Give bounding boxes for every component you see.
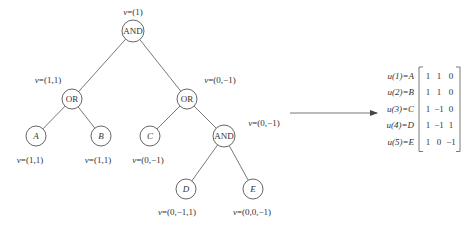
matrix-row-label: u(1)=A — [387, 71, 414, 81]
matrix-row-label: u(4)=D — [386, 120, 414, 130]
node-C: C — [140, 126, 160, 146]
edge-and-inner-D — [192, 145, 218, 181]
matrix-cell: 0 — [449, 104, 454, 114]
value-label-E: v=(0,0,−1) — [233, 207, 271, 217]
matrix-cell: −1 — [434, 120, 444, 130]
edge-or-right-and-inner — [194, 106, 216, 128]
node-label: E — [249, 184, 256, 194]
node-label: AND — [123, 26, 143, 36]
node-label: B — [98, 131, 104, 141]
matrix-cell: 1 — [437, 87, 442, 97]
matrix-cell: 1 — [426, 87, 431, 97]
matrix-cell: 1 — [426, 137, 431, 147]
node-label: OR — [181, 94, 194, 104]
node-B: B — [91, 126, 111, 146]
node-value-labels: v=(1)v=(1,1)v=(0,−1)v=(1,1)v=(1,1)v=(0,−… — [17, 7, 280, 217]
matrix-cell: 1 — [426, 104, 431, 114]
and-or-tree-diagram: ANDORORABCANDDE v=(1)v=(1,1)v=(0,−1)v=(1… — [0, 0, 468, 229]
value-label-D: v=(0,−1,1) — [158, 207, 196, 217]
value-label-B: v=(1,1) — [85, 155, 111, 165]
node-label: OR — [66, 94, 79, 104]
coefficient-matrix: u(1)=A110u(2)=B110u(3)=C1−10u(4)=D1−11u(… — [386, 67, 460, 152]
matrix-cell: 1 — [426, 120, 431, 130]
node-label: A — [32, 131, 39, 141]
matrix-cell: 0 — [449, 87, 454, 97]
edge-or-left-B — [78, 107, 95, 128]
value-label-and-inner: v=(0,−1) — [248, 118, 279, 128]
node-D: D — [176, 179, 196, 199]
value-label-A: v=(1,1) — [17, 155, 43, 165]
matrix-cell: 0 — [449, 71, 454, 81]
value-label-or-left: v=(1,1) — [35, 75, 61, 85]
value-label-root: v=(1) — [123, 7, 143, 17]
matrix-left-bracket — [419, 67, 423, 152]
matrix-row-label: u(5)=E — [387, 137, 414, 147]
matrix-cell: −1 — [434, 104, 444, 114]
edge-or-right-C — [157, 106, 180, 129]
node-A: A — [26, 126, 46, 146]
edge-and-inner-E — [229, 146, 248, 181]
node-E: E — [243, 179, 263, 199]
matrix-cell: 1 — [437, 71, 442, 81]
matrix-right-bracket — [456, 67, 460, 152]
node-label: AND — [214, 131, 234, 141]
node-label: D — [182, 184, 190, 194]
edge-or-left-A — [43, 106, 65, 129]
node-and-inner: AND — [213, 125, 235, 147]
matrix-row-label: u(2)=B — [387, 87, 414, 97]
edge-root-or-left — [79, 39, 126, 91]
edge-root-or-right — [140, 40, 181, 92]
node-label: C — [147, 131, 154, 141]
matrix-cell: −1 — [446, 137, 456, 147]
value-label-C: v=(0,−1) — [132, 155, 163, 165]
matrix-cell: 1 — [426, 71, 431, 81]
matrix-row-label: u(3)=C — [387, 104, 415, 114]
matrix-cell: 0 — [437, 137, 442, 147]
node-or-right: OR — [177, 89, 197, 109]
value-label-or-right: v=(0,−1) — [204, 75, 235, 85]
node-or-left: OR — [62, 89, 82, 109]
node-root: AND — [122, 20, 144, 42]
matrix-cell: 1 — [449, 120, 454, 130]
